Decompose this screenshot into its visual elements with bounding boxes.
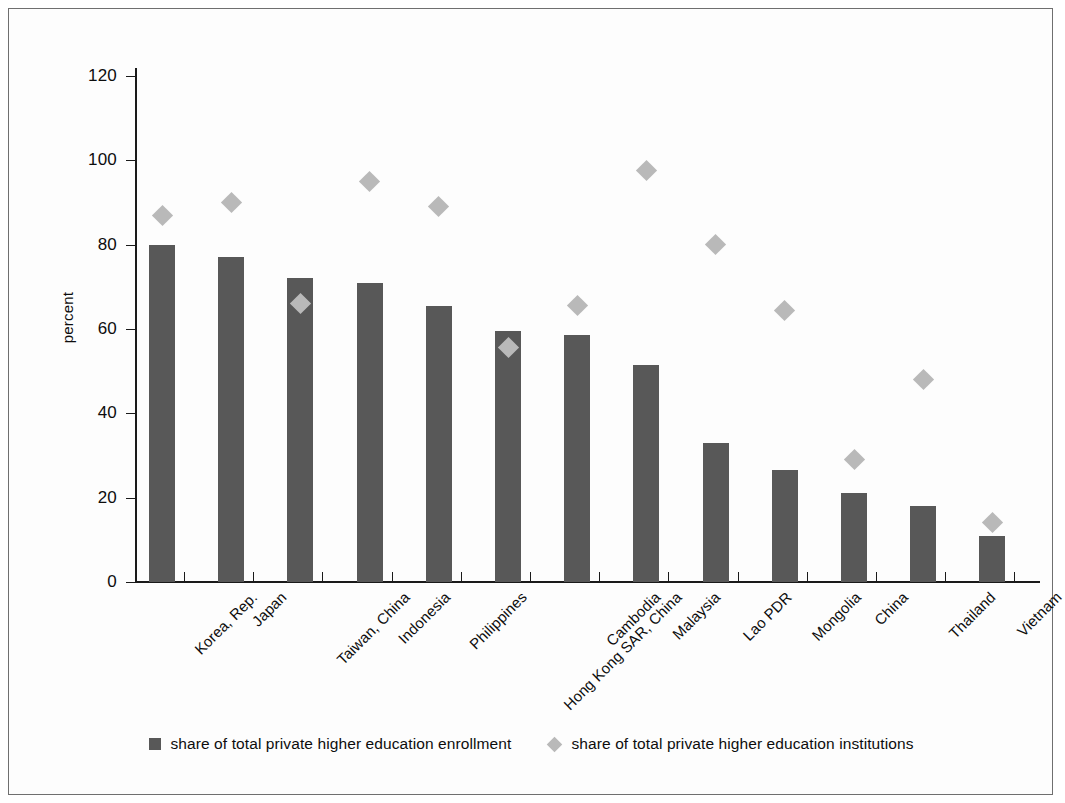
x-axis-tick xyxy=(1014,572,1015,583)
x-axis-label-vietnam: Vietnam xyxy=(1015,589,1065,640)
x-axis-tick xyxy=(461,572,462,583)
bar-taiwan-china[interactable] xyxy=(287,278,313,582)
diamond-vietnam[interactable] xyxy=(982,512,1003,533)
diamond-philippines[interactable] xyxy=(428,196,449,217)
diamond-mongolia[interactable] xyxy=(774,299,795,320)
y-axis-tick xyxy=(126,329,135,330)
x-axis-tick xyxy=(599,572,600,583)
x-axis-label-lao-pdr: Lao PDR xyxy=(740,589,795,644)
y-axis-title: percent xyxy=(59,258,76,378)
legend-item-2[interactable]: share of total private higher education … xyxy=(547,735,913,753)
bar-china[interactable] xyxy=(841,493,867,582)
x-axis-tick xyxy=(668,572,669,583)
y-axis-tick-label: 120 xyxy=(71,67,117,84)
diamond-indonesia[interactable] xyxy=(359,171,380,192)
chart-legend: share of total private higher education … xyxy=(9,735,1054,753)
diamond-thailand[interactable] xyxy=(913,369,934,390)
diamond-japan[interactable] xyxy=(221,192,242,213)
legend-item-1[interactable]: share of total private higher education … xyxy=(149,735,511,753)
x-axis-label-hong-kong-sar-china: Hong Kong SAR, China xyxy=(561,589,685,713)
bar-japan[interactable] xyxy=(218,257,244,582)
x-axis-tick xyxy=(738,572,739,583)
bar-thailand[interactable] xyxy=(910,506,936,582)
x-axis-tick xyxy=(392,572,393,583)
bar-philippines[interactable] xyxy=(426,306,452,582)
y-axis-tick-label: 60 xyxy=(71,320,117,337)
diamond-cambodia[interactable] xyxy=(567,295,588,316)
y-axis-tick-label: 0 xyxy=(71,573,117,590)
bar-mongolia[interactable] xyxy=(772,470,798,582)
diamond-korea-rep[interactable] xyxy=(151,205,172,226)
diamond-china[interactable] xyxy=(843,449,864,470)
bar-vietnam[interactable] xyxy=(979,536,1005,582)
diamond-lao-pdr[interactable] xyxy=(705,234,726,255)
y-axis-tick xyxy=(126,245,135,246)
x-axis-label-thailand: Thailand xyxy=(946,589,999,642)
plot-area: percent 120100806040200 Korea, Rep.Japan… xyxy=(9,9,1054,796)
bar-hong-kong-sar-china[interactable] xyxy=(495,331,521,582)
y-axis-tick-label: 80 xyxy=(71,236,117,253)
y-axis-tick-label: 20 xyxy=(71,489,117,506)
y-axis-tick-label: 40 xyxy=(71,404,117,421)
legend-item-label: share of total private higher education … xyxy=(170,735,511,753)
x-axis-tick xyxy=(322,572,323,583)
diamond-malaysia[interactable] xyxy=(636,160,657,181)
square-swatch-icon xyxy=(149,738,161,750)
x-axis-label-china: China xyxy=(872,589,911,628)
x-axis-tick xyxy=(807,572,808,583)
y-axis-tick xyxy=(126,413,135,414)
diamond-swatch-icon xyxy=(547,736,563,752)
x-axis-tick xyxy=(253,572,254,583)
bar-indonesia[interactable] xyxy=(357,283,383,582)
chart-frame: percent 120100806040200 Korea, Rep.Japan… xyxy=(8,8,1053,795)
legend-item-label: share of total private higher education … xyxy=(571,735,913,753)
x-axis-label-korea-rep: Korea, Rep. xyxy=(192,589,261,658)
y-axis-tick xyxy=(126,582,135,583)
y-axis-tick-label: 100 xyxy=(71,151,117,168)
x-axis-tick xyxy=(530,572,531,583)
bar-cambodia[interactable] xyxy=(564,335,590,582)
x-axis-tick xyxy=(945,572,946,583)
y-axis-tick xyxy=(126,76,135,77)
x-axis-label-philippines: Philippines xyxy=(466,589,529,652)
bar-lao-pdr[interactable] xyxy=(703,443,729,582)
x-axis-label-mongolia: Mongolia xyxy=(809,589,864,644)
y-axis-tick xyxy=(126,160,135,161)
bar-malaysia[interactable] xyxy=(633,365,659,582)
x-axis-tick xyxy=(876,572,877,583)
x-axis-tick xyxy=(184,572,185,583)
bar-korea-rep[interactable] xyxy=(149,245,175,582)
y-axis-line xyxy=(135,68,137,583)
y-axis-tick xyxy=(126,498,135,499)
